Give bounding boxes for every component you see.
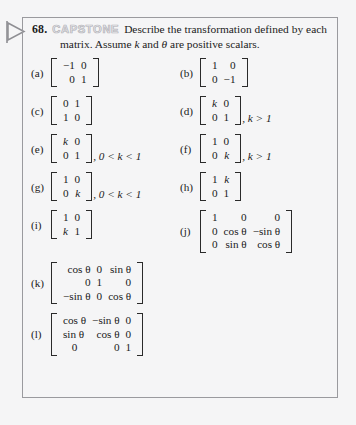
- matrix-cells: 1 0 0 −1: [206, 58, 242, 87]
- matrix-cell: 0: [89, 341, 123, 355]
- matrix-cell: 0: [209, 238, 221, 252]
- bracket-right: [86, 172, 92, 201]
- matrix-cell: 0: [72, 111, 84, 125]
- matrix-cell: 1: [60, 173, 72, 187]
- matrix-cells: −1 0 0 1: [57, 58, 93, 87]
- prompt-text-mid: and: [142, 38, 158, 50]
- parts-row: (k) cos θ 0 sin θ 0 1 0 −sin θ 0 cos: [31, 262, 329, 305]
- parts-row: (e) k 0 0 1 , 0 < k < 1 (f): [31, 134, 329, 163]
- matrix-cell: 0: [221, 135, 233, 149]
- matrix-cell: 0: [72, 173, 84, 187]
- prompt-text-tail: are positive scalars.: [170, 38, 260, 50]
- parts-row: (i) 1 0 k 1 (j): [31, 210, 329, 253]
- matrix-cell: 0: [250, 211, 284, 225]
- matrix-cells: k 0 0 1: [206, 96, 235, 125]
- matrix-cell: cos θ: [60, 314, 89, 328]
- prompt-variable-theta: θ: [162, 38, 168, 50]
- bracket-right: [137, 313, 143, 356]
- matrix-cell: 1: [221, 187, 233, 201]
- matrix-cell: 0: [123, 314, 135, 328]
- matrix-cell: 1: [78, 73, 90, 87]
- matrix-cell: −sin θ: [60, 290, 94, 304]
- part-label: (h): [180, 181, 200, 193]
- exercise-number: 68.: [32, 22, 47, 36]
- matrix-cell: k: [221, 173, 233, 187]
- part-l: (l) cos θ −sin θ 0 sin θ cos θ 0 0 0: [31, 313, 329, 356]
- bracket-right: [86, 210, 92, 239]
- matrix-cells: 0 1 1 0: [57, 96, 86, 125]
- matrix-cell: 0: [94, 290, 106, 304]
- matrix-h: 1 k 0 1: [200, 172, 241, 201]
- matrix-cell: 1: [221, 111, 233, 125]
- matrix-cell: 1: [72, 225, 84, 239]
- matrix-cell: 1: [72, 149, 84, 163]
- matrix-cell: 0: [209, 225, 221, 239]
- matrix-cell: 1: [209, 211, 221, 225]
- matrix-cell: −1: [221, 73, 239, 87]
- bracket-right: [242, 58, 248, 87]
- matrix-cells: 1 0 0 0 cos θ −sin θ 0 sin θ cos θ: [206, 210, 286, 253]
- matrix-cell: 0: [123, 328, 135, 342]
- part-a: (a) −1 0 0 1: [31, 58, 180, 87]
- matrix-cell: k: [72, 187, 84, 201]
- matrix-c: 0 1 1 0: [51, 96, 92, 125]
- capstone-badge: CAPSTONE: [52, 23, 119, 35]
- matrix-cell: 0: [78, 59, 90, 73]
- matrix-f: 1 0 0 k: [200, 134, 241, 163]
- matrix-a: −1 0 0 1: [51, 58, 99, 87]
- exercise-prompt: 68. CAPSTONE Describe the transformation…: [32, 22, 327, 51]
- part-label: (k): [31, 277, 51, 289]
- matrix-cell: 0: [221, 59, 239, 73]
- bracket-right: [93, 58, 99, 87]
- bracket-right: [86, 134, 92, 163]
- part-label: (c): [31, 105, 51, 117]
- part-condition: , k > 1: [241, 112, 271, 125]
- matrix-cell: cos θ: [89, 328, 123, 342]
- bracket-right: [137, 262, 143, 305]
- part-h: (h) 1 k 0 1: [180, 172, 329, 201]
- matrix-cell: 1: [209, 173, 221, 187]
- part-label: (g): [31, 181, 51, 193]
- matrix-cell: 0: [209, 111, 221, 125]
- matrix-cell: 0: [94, 263, 106, 277]
- matrix-cell: k: [60, 135, 72, 149]
- matrix-cells: 1 0 0 k: [206, 134, 235, 163]
- matrix-cells: 1 k 0 1: [206, 172, 235, 201]
- matrix-cell: 0: [221, 211, 250, 225]
- matrix-cell: cos θ: [221, 225, 250, 239]
- matrix-cell: 0: [221, 97, 233, 111]
- matrix-b: 1 0 0 −1: [200, 58, 248, 87]
- exercise-box: 68. CAPSTONE Describe the transformation…: [22, 17, 338, 398]
- matrix-cells: 1 0 0 k: [57, 172, 86, 201]
- bracket-right: [235, 172, 241, 201]
- matrix-cell: sin θ: [221, 238, 250, 252]
- matrix-i: 1 0 k 1: [51, 210, 92, 239]
- bracket-right: [286, 210, 292, 253]
- matrix-cells: cos θ −sin θ 0 sin θ cos θ 0 0 0 1: [57, 313, 137, 356]
- matrix-cell: 0: [60, 276, 94, 290]
- matrix-l: cos θ −sin θ 0 sin θ cos θ 0 0 0 1: [51, 313, 143, 356]
- part-label: (i): [31, 219, 51, 231]
- bracket-right: [86, 96, 92, 125]
- part-label: (j): [180, 225, 200, 237]
- matrix-cell: −sin θ: [250, 225, 284, 239]
- matrix-g: 1 0 0 k: [51, 172, 92, 201]
- part-condition: , 0 < k < 1: [92, 150, 141, 163]
- matrix-cell: 1: [209, 135, 221, 149]
- part-b: (b) 1 0 0 −1: [180, 58, 329, 87]
- part-i: (i) 1 0 k 1: [31, 210, 180, 239]
- matrix-d: k 0 0 1: [200, 96, 241, 125]
- matrix-cell: k: [60, 225, 72, 239]
- matrix-cell: k: [221, 149, 233, 163]
- matrix-cell: −sin θ: [89, 314, 123, 328]
- matrix-cell: 0: [60, 187, 72, 201]
- matrix-cell: 1: [94, 276, 106, 290]
- bracket-right: [235, 134, 241, 163]
- matrix-cell: 0: [209, 149, 221, 163]
- matrix-cells: 1 0 k 1: [57, 210, 86, 239]
- part-label: (b): [180, 67, 200, 79]
- matrix-e: k 0 0 1: [51, 134, 92, 163]
- matrix-cell: 0: [105, 276, 134, 290]
- parts-row: (g) 1 0 0 k , 0 < k < 1 (h): [31, 172, 329, 201]
- matrix-cell: sin θ: [60, 328, 89, 342]
